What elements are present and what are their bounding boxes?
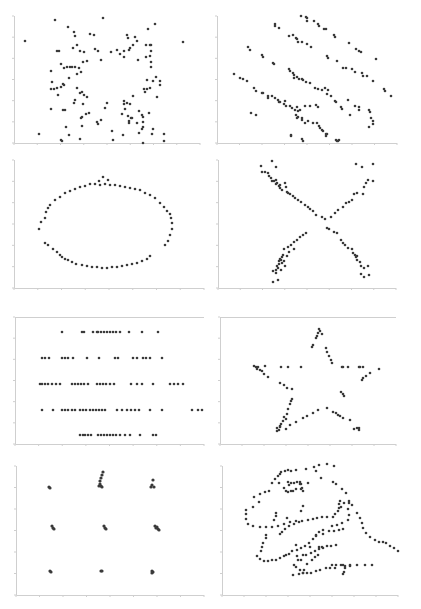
data-point: [271, 482, 274, 485]
data-point: [292, 574, 295, 577]
data-point: [297, 559, 300, 562]
data-point: [331, 564, 334, 567]
data-point: [338, 503, 341, 506]
data-point: [307, 519, 310, 522]
data-point: [302, 490, 305, 493]
data-point: [273, 519, 276, 522]
data-point: [308, 542, 311, 545]
data-point: [281, 531, 284, 534]
data-point: [290, 470, 293, 473]
data-point: [305, 468, 308, 471]
data-point: [252, 525, 255, 528]
data-point: [349, 565, 352, 568]
data-point: [298, 521, 301, 524]
data-point: [291, 550, 294, 553]
data-point: [288, 553, 291, 556]
data-point: [382, 541, 385, 544]
data-point: [261, 546, 264, 549]
data-point: [271, 559, 274, 562]
data-point: [312, 518, 315, 521]
data-point: [304, 545, 307, 548]
data-point: [259, 526, 262, 529]
data-point: [328, 530, 331, 533]
data-point: [264, 491, 267, 494]
data-point: [318, 548, 321, 551]
data-point: [307, 482, 310, 485]
data-point: [332, 516, 335, 519]
data-point: [334, 513, 337, 516]
data-point: [313, 466, 316, 469]
data-point: [290, 482, 293, 485]
data-point: [333, 530, 336, 533]
data-point: [321, 516, 324, 519]
data-point: [298, 573, 301, 576]
data-point: [335, 544, 338, 547]
data-point: [277, 525, 280, 528]
data-point: [326, 516, 329, 519]
data-point: [316, 517, 319, 520]
data-point: [287, 469, 290, 472]
data-point: [326, 463, 329, 466]
data-point: [318, 531, 321, 534]
data-point: [340, 506, 343, 509]
data-point: [336, 524, 339, 527]
data-point: [295, 544, 298, 547]
data-point: [340, 564, 343, 567]
data-point: [322, 529, 325, 532]
data-point: [271, 526, 274, 529]
data-point: [274, 478, 277, 481]
data-point: [278, 482, 281, 485]
data-point: [279, 533, 282, 536]
data-point: [338, 529, 341, 532]
data-point: [348, 514, 351, 517]
data-point: [339, 500, 342, 503]
data-point: [315, 570, 318, 573]
data-point: [342, 573, 345, 576]
data-point: [275, 515, 278, 518]
data-point: [359, 517, 362, 520]
data-point: [335, 564, 338, 567]
data-point: [296, 481, 299, 484]
data-point: [303, 569, 306, 572]
data-point: [283, 555, 286, 558]
data-point: [342, 528, 345, 531]
data-point: [371, 564, 374, 567]
data-point: [301, 520, 304, 523]
data-point: [345, 492, 348, 495]
data-point: [330, 545, 333, 548]
data-point: [300, 488, 303, 491]
data-point: [279, 557, 282, 560]
data-point: [315, 470, 318, 473]
data-point: [279, 473, 282, 476]
data-point: [335, 483, 338, 486]
data-point: [285, 490, 288, 493]
data-point: [312, 538, 315, 541]
data-point: [332, 481, 335, 484]
data-point: [245, 518, 248, 521]
data-point: [288, 525, 291, 528]
data-point: [374, 539, 377, 542]
data-point: [341, 522, 344, 525]
data-point: [310, 572, 313, 575]
data-point: [393, 547, 396, 550]
data-point: [293, 482, 296, 485]
data-point: [351, 504, 354, 507]
data-point: [275, 559, 278, 562]
data-point: [302, 572, 305, 575]
data-point: [326, 545, 329, 548]
data-point: [322, 533, 325, 536]
data-point: [289, 521, 292, 524]
data-point: [397, 550, 400, 553]
data-point: [385, 542, 388, 545]
data-point: [305, 554, 308, 557]
data-point: [319, 569, 322, 572]
data-point: [259, 493, 262, 496]
data-point: [265, 534, 268, 537]
data-point: [245, 513, 248, 516]
data-point: [311, 559, 314, 562]
data-point: [361, 522, 364, 525]
data-point: [300, 559, 303, 562]
data-point: [300, 547, 303, 550]
data-point: [295, 469, 298, 472]
data-point: [347, 508, 350, 511]
